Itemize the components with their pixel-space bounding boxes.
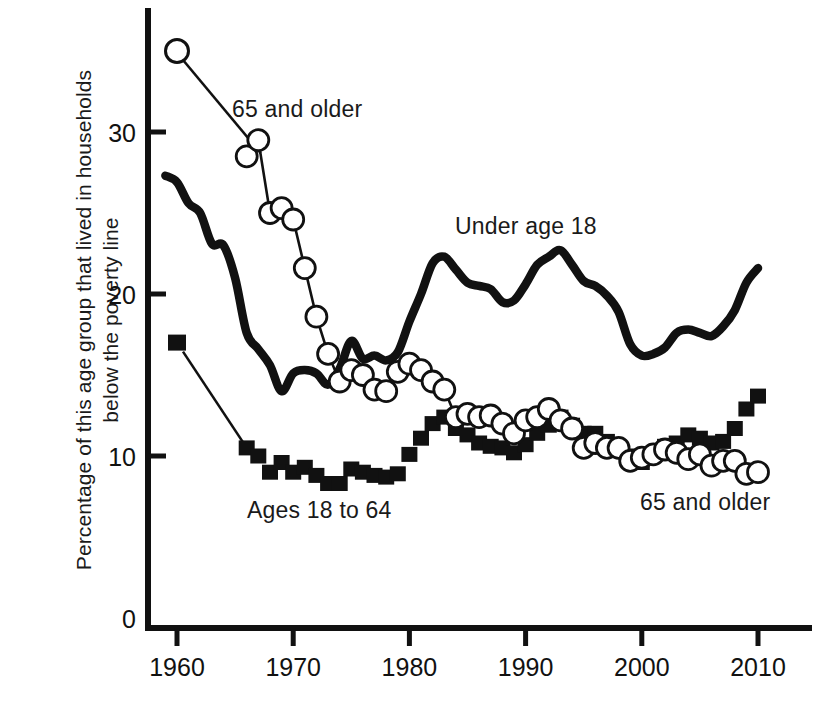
data-point-marker [727, 421, 743, 436]
y-tick-30: 30 [108, 119, 136, 147]
data-point-marker [390, 466, 406, 481]
data-point-marker [248, 130, 269, 151]
x-tick-1990: 1990 [498, 653, 554, 681]
y-axis-tick-labels: 3020100 [108, 119, 136, 633]
y-tick-20: 20 [108, 281, 136, 309]
poverty-rate-chart-figure: Percentage of this age group that lived … [0, 0, 819, 707]
x-tick-2000: 2000 [614, 653, 670, 681]
x-axis-tick-labels: 196019701980199020002010 [149, 653, 786, 681]
x-tick-1980: 1980 [382, 653, 438, 681]
data-point-marker [562, 418, 583, 439]
data-point-marker [750, 389, 766, 404]
x-tick-2010: 2010 [730, 653, 786, 681]
data-point-marker [332, 476, 348, 491]
series-ages-18-to-64 [239, 389, 766, 491]
data-point-marker [376, 381, 397, 402]
series-under-age-18 [165, 176, 758, 392]
y-tick-10: 10 [108, 443, 136, 471]
x-tick-1960: 1960 [149, 653, 205, 681]
data-point-marker [294, 258, 315, 279]
data-point-marker [434, 379, 455, 400]
data-point-marker [748, 462, 769, 483]
y-tick-0: 0 [122, 605, 136, 633]
data-point-marker [413, 431, 429, 446]
data-point-marker [715, 434, 731, 449]
legend-marker-open-circle [166, 40, 189, 63]
data-point-marker [318, 343, 339, 364]
data-point-marker [401, 447, 417, 462]
chart-plot-area: 3020100 196019701980199020002010 [0, 0, 819, 707]
data-point-marker [738, 402, 754, 417]
data-point-marker [250, 449, 266, 464]
x-tick-1970: 1970 [265, 653, 321, 681]
legend-marker-filled-square [168, 335, 186, 351]
data-point-marker [283, 209, 304, 230]
data-point-marker [306, 306, 327, 327]
